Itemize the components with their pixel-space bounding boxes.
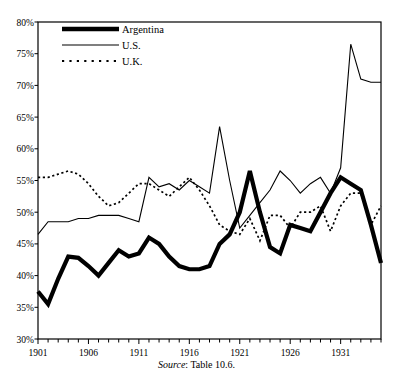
x-tick-label: 1926 [281, 348, 300, 358]
x-axis-tick-labels: 1901190619111916192119261931 [29, 348, 351, 358]
x-tick-label: 1911 [130, 348, 149, 358]
y-tick-label: 70% [17, 81, 35, 91]
source-note: Source: Table 10.6. [0, 359, 393, 370]
legend-label-uk: U.K. [122, 56, 142, 67]
plot-frame [38, 22, 381, 339]
y-tick-label: 80% [17, 18, 35, 28]
y-tick-label: 35% [17, 303, 35, 313]
series-line-uk [38, 171, 381, 241]
chart-legend: ArgentinaU.S.U.K. [62, 24, 164, 67]
x-tick-label: 1901 [29, 348, 48, 358]
x-tick-label: 1931 [331, 348, 350, 358]
series-line-us [38, 44, 381, 234]
x-tick-label: 1916 [180, 348, 199, 358]
axis-tick-marks [35, 22, 382, 344]
y-tick-label: 45% [17, 239, 35, 249]
chart-figure: 30%35%40%45%50%55%60%65%70%75%80% 190119… [0, 0, 393, 379]
source-label: Source [158, 359, 185, 370]
y-tick-label: 60% [17, 144, 35, 154]
y-tick-label: 55% [17, 176, 35, 186]
legend-label-us: U.S. [122, 40, 141, 51]
y-tick-label: 65% [17, 113, 35, 123]
y-axis-tick-labels: 30%35%40%45%50%55%60%65%70%75%80% [17, 18, 35, 345]
series-lines [38, 44, 381, 304]
legend-label-argentina: Argentina [122, 24, 164, 35]
source-value: : Table 10.6. [185, 359, 235, 370]
y-tick-label: 50% [17, 208, 35, 218]
y-tick-label: 40% [17, 271, 35, 281]
x-tick-label: 1906 [79, 348, 98, 358]
line-chart: 30%35%40%45%50%55%60%65%70%75%80% 190119… [0, 0, 393, 379]
y-tick-label: 75% [17, 49, 35, 59]
x-tick-label: 1921 [230, 348, 249, 358]
y-tick-label: 30% [17, 335, 35, 345]
